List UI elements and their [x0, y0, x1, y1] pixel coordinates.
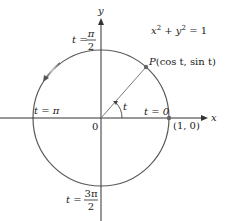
origin-label: 0	[92, 121, 98, 132]
t-pi-over-2-label: t = π 2	[72, 28, 96, 52]
eq-plus: +	[161, 25, 176, 36]
t-pi2-lhs: t =	[72, 34, 88, 45]
angle-label: t	[123, 101, 128, 112]
point-P-label: P(cos t, sin t)	[148, 56, 216, 67]
t-pi-label: t = π	[34, 105, 60, 116]
y-axis-label: y	[97, 5, 104, 16]
t-3pi2-num: 3π	[85, 188, 98, 199]
point-P	[144, 65, 148, 69]
x-axis-arrow-icon	[201, 115, 208, 121]
t-3pi-over-2-label: t = 3π 2	[66, 188, 98, 212]
t-pi2-den: 2	[88, 41, 94, 52]
unit-circle-diagram: y x 0 x2 + y2 = 1 P(cos t, sin t) t t = …	[0, 0, 225, 221]
t-3pi2-den: 2	[88, 201, 94, 212]
point-P-coords: (cos t, sin t)	[156, 56, 216, 67]
point-1-0-label: (1, 0)	[173, 120, 200, 131]
eq-equals: = 1	[186, 25, 207, 36]
circle-equation: x2 + y2 = 1	[151, 24, 207, 36]
t-pi2-num: π	[87, 28, 95, 39]
x-axis-label: x	[211, 112, 217, 123]
y-axis-arrow-icon	[98, 18, 104, 25]
t-3pi2-lhs: t =	[66, 194, 82, 205]
t-zero-label: t = 0	[144, 106, 170, 117]
direction-arc-highlight	[46, 63, 60, 78]
